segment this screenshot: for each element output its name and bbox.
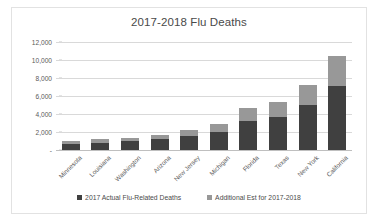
- y-axis-tick-label: 6,000: [35, 93, 52, 100]
- bar-segment-additional[interactable]: [328, 56, 346, 87]
- chart-legend: 2017 Actual Flu-Related DeathsAdditional…: [12, 194, 366, 201]
- y-axis-tick-label: -: [50, 147, 52, 154]
- legend-item[interactable]: Additional Est for 2017-2018: [207, 194, 301, 201]
- y-axis-tick-label: 2,000: [35, 129, 52, 136]
- bar-segment-actual[interactable]: [121, 141, 139, 150]
- bar-series-group: [56, 42, 352, 150]
- bar-column[interactable]: [299, 85, 317, 150]
- x-axis-category-label: Arizona: [151, 154, 171, 174]
- bar-column[interactable]: [269, 102, 287, 150]
- legend-label: Additional Est for 2017-2018: [215, 194, 301, 201]
- bar-column[interactable]: [91, 139, 109, 150]
- bar-segment-additional[interactable]: [269, 102, 287, 117]
- x-axis-category-label: Minnesota: [57, 154, 83, 180]
- x-axis-category-label: Washington: [113, 154, 142, 183]
- x-axis-category-label: New Jersey: [173, 154, 202, 183]
- bar-segment-additional[interactable]: [210, 124, 228, 132]
- bar-column[interactable]: [328, 56, 346, 150]
- x-axis-category-label: Florida: [242, 154, 261, 173]
- bar-column[interactable]: [210, 124, 228, 150]
- x-axis-category-label: Michigan: [208, 154, 231, 177]
- y-axis-tick-label: 8,000: [35, 75, 52, 82]
- x-axis-category-label: Louisiana: [88, 154, 112, 178]
- bar-segment-actual[interactable]: [269, 117, 287, 150]
- legend-swatch: [77, 195, 82, 200]
- bar-segment-actual[interactable]: [210, 132, 228, 150]
- y-axis-tick-label: 10,000: [32, 57, 52, 64]
- legend-item[interactable]: 2017 Actual Flu-Related Deaths: [77, 194, 181, 201]
- plot-area: [56, 42, 352, 150]
- legend-swatch: [207, 195, 212, 200]
- chart-container: 2017-2018 Flu Deaths -2,0004,0006,0008,0…: [11, 7, 367, 214]
- bar-segment-actual[interactable]: [180, 136, 198, 150]
- x-axis-category-label: Texas: [273, 154, 290, 171]
- x-axis-category-label: New York: [296, 154, 320, 178]
- x-axis-category-labels: MinnesotaLouisianaWashingtonArizonaNew J…: [56, 151, 352, 195]
- bar-segment-actual[interactable]: [328, 86, 346, 150]
- legend-label: 2017 Actual Flu-Related Deaths: [85, 194, 181, 201]
- bar-segment-actual[interactable]: [239, 121, 257, 150]
- bar-segment-additional[interactable]: [299, 85, 317, 106]
- y-axis-tick-label: 4,000: [35, 111, 52, 118]
- y-axis-tick-label: 12,000: [32, 39, 52, 46]
- bar-column[interactable]: [121, 138, 139, 150]
- chart-title: 2017-2018 Flu Deaths: [12, 16, 366, 28]
- bar-segment-additional[interactable]: [239, 108, 257, 122]
- y-axis: -2,0004,0006,0008,00010,00012,000: [18, 42, 52, 150]
- x-axis-category-label: California: [325, 154, 349, 178]
- bar-segment-actual[interactable]: [299, 105, 317, 150]
- bar-column[interactable]: [180, 130, 198, 150]
- bar-column[interactable]: [239, 108, 257, 150]
- bar-column[interactable]: [151, 135, 169, 150]
- bar-segment-actual[interactable]: [151, 139, 169, 150]
- bar-column[interactable]: [62, 141, 80, 150]
- bar-segment-actual[interactable]: [91, 143, 109, 150]
